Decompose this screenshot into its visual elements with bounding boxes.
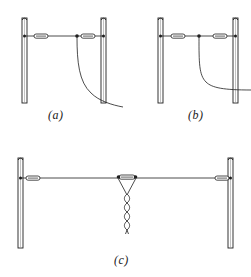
- panel-c-centre-right-dot: [134, 175, 138, 179]
- panel-b: [158, 18, 251, 103]
- antenna-diagram-figure: (a) (b) (c): [0, 0, 251, 277]
- figure-canvas: [0, 0, 251, 277]
- panel-b-caption: (b): [188, 108, 204, 123]
- panel-b-right-mast: [233, 18, 238, 103]
- panel-a-right-mast: [101, 18, 106, 103]
- panel-a-left-insulator: [34, 34, 48, 38]
- panel-c: [18, 158, 233, 248]
- panel-b-right-insulator: [213, 34, 227, 38]
- panel-b-right-terminal-dot: [234, 35, 237, 38]
- panel-c-twisted-feeder: [124, 194, 129, 234]
- panel-a-feed-line: [77, 37, 123, 107]
- panel-c-centre-left-dot: [117, 175, 121, 179]
- panel-a-caption: (a): [48, 108, 64, 123]
- panel-c-feeder-right-leg: [128, 179, 136, 194]
- panel-c-centre-insulator: [119, 175, 135, 179]
- panel-a: [22, 18, 123, 107]
- panel-a-left-terminal-dot: [23, 35, 26, 38]
- panel-c-left-terminal-dot: [19, 177, 22, 180]
- panel-c-caption: (c): [114, 253, 129, 268]
- panel-a-right-terminal-dot: [102, 35, 105, 38]
- panel-b-feed-line: [199, 37, 251, 90]
- panel-c-left-mast: [18, 158, 23, 248]
- panel-a-right-insulator: [81, 34, 95, 38]
- panel-c-right-terminal-dot: [229, 177, 232, 180]
- panel-c-right-insulator: [215, 176, 229, 180]
- panel-b-left-insulator: [171, 34, 185, 38]
- panel-b-left-mast: [158, 18, 163, 103]
- panel-c-right-mast: [228, 158, 233, 248]
- panel-b-left-terminal-dot: [159, 35, 162, 38]
- panel-a-left-mast: [22, 18, 27, 103]
- panel-c-feeder-left-leg: [119, 179, 127, 194]
- panel-c-left-insulator: [26, 176, 40, 180]
